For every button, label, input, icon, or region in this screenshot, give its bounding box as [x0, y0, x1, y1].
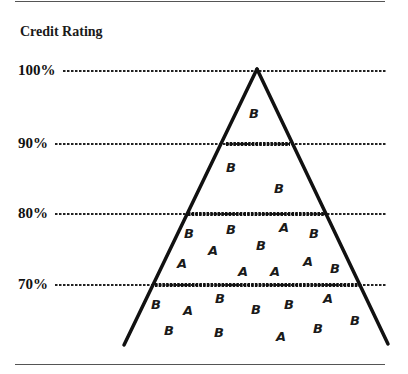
rating-letter-b: B	[256, 238, 266, 253]
rating-letter-b: B	[151, 297, 161, 312]
rating-letter-b: B	[330, 261, 340, 276]
rating-letter-a: A	[176, 256, 187, 271]
rating-letter-a: A	[278, 220, 289, 235]
rating-letter-b: B	[274, 181, 284, 196]
rating-letter-b: B	[313, 321, 323, 336]
rating-letter-b: B	[184, 226, 194, 241]
rating-letter-b: B	[226, 222, 236, 237]
rating-letter-a: A	[207, 243, 218, 258]
rating-letter-b: B	[251, 302, 261, 317]
rating-letter-a: A	[182, 303, 193, 318]
rating-letter-b: B	[215, 291, 225, 306]
rating-letter-a: A	[322, 291, 333, 306]
rating-letter-b: B	[350, 313, 360, 328]
bottom-rule	[15, 364, 385, 365]
rating-letter-b: B	[309, 226, 319, 241]
rating-letter-b: B	[284, 297, 294, 312]
rating-letter-a: A	[275, 329, 286, 344]
rating-letter-b: B	[249, 106, 259, 121]
rating-letter-b: B	[214, 325, 224, 340]
rating-letter-a: A	[237, 264, 248, 279]
rating-letter-b: B	[164, 323, 174, 338]
rating-letter-a: A	[302, 254, 313, 269]
pyramid-diagram: BBBBBABABAAAABBBAABBBBABB	[0, 0, 408, 374]
level-lines	[55, 71, 386, 285]
rating-letter-a: A	[269, 264, 280, 279]
rating-letter-b: B	[226, 160, 236, 175]
